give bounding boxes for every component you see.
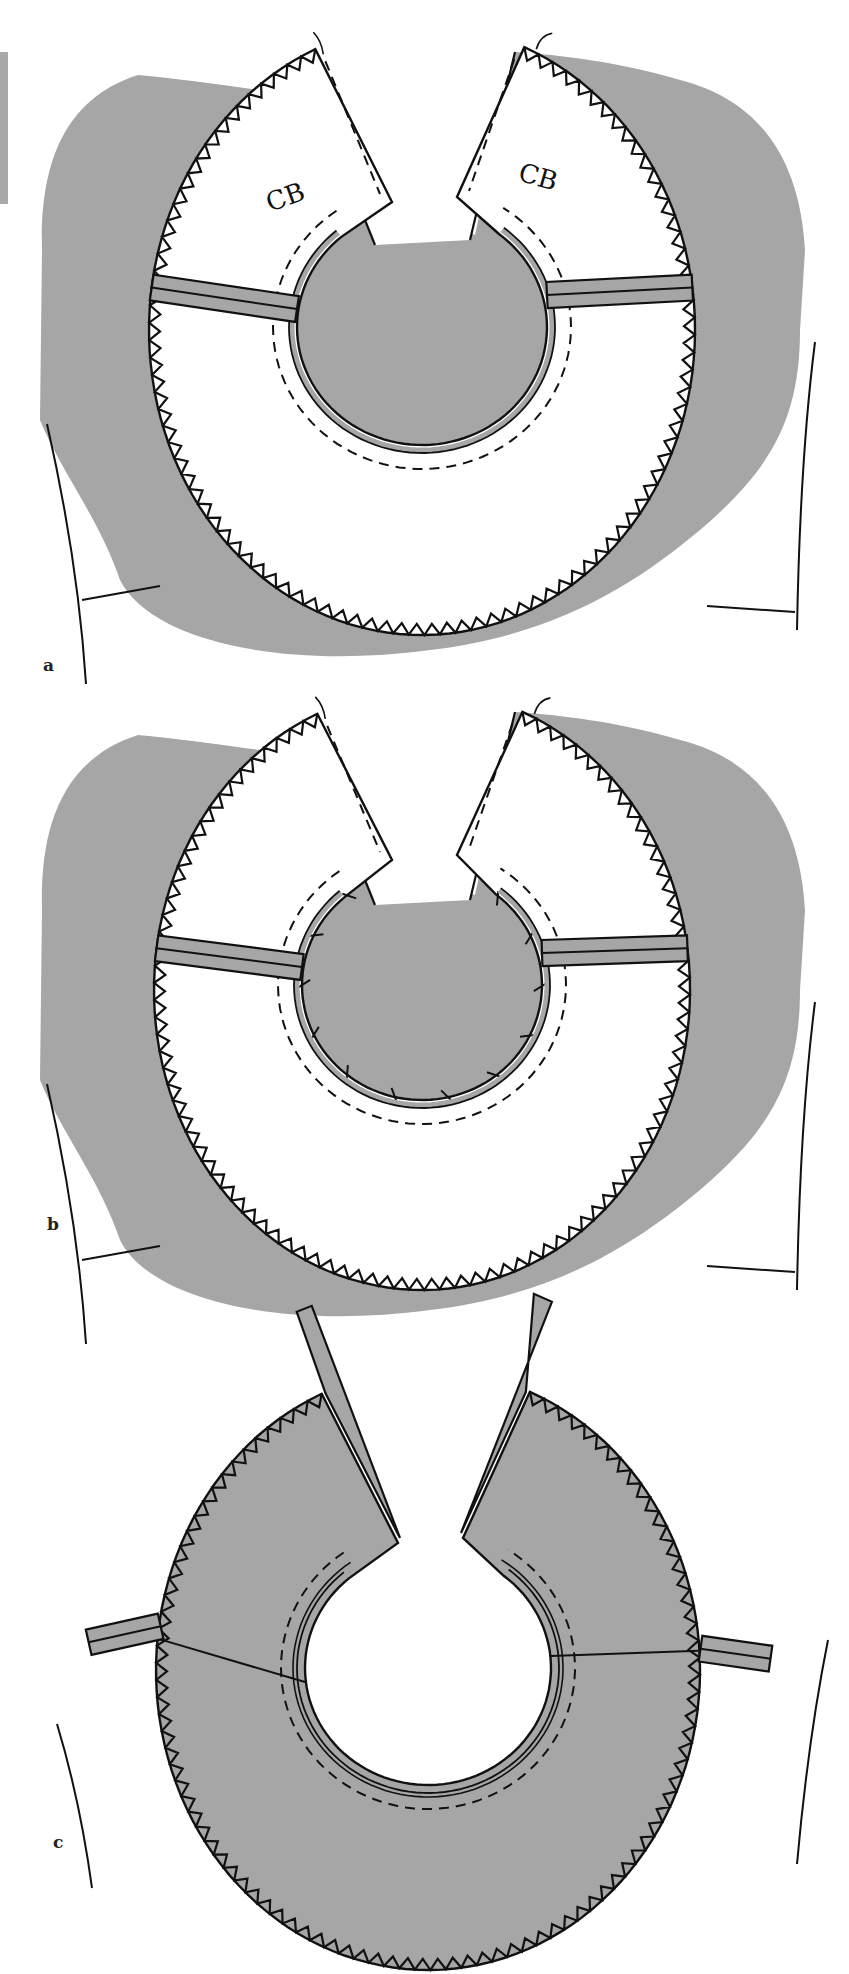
panel-b — [40, 697, 815, 1344]
illustration-canvas: CBCB — [0, 0, 849, 1974]
panel-label-a: a — [43, 655, 54, 675]
page-edge-strip — [0, 52, 8, 204]
collar-piece — [156, 1392, 700, 1970]
panel-label-c: c — [53, 1832, 63, 1852]
panel-c — [57, 1294, 828, 1970]
panel-a: CBCB — [40, 32, 815, 684]
sewing-diagram: CBCB a b c — [0, 0, 849, 1974]
panel-label-b: b — [47, 1214, 59, 1234]
